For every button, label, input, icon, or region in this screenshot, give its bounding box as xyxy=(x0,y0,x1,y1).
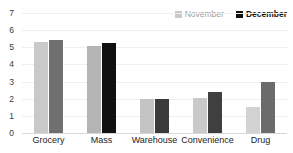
bar-group xyxy=(140,13,169,133)
bar-warehouse-november xyxy=(140,99,154,133)
bar-chart: November December 76543210 GroceryMassWa… xyxy=(0,0,293,153)
x-axis-label-mass: Mass xyxy=(91,135,113,146)
y-axis-tick-label: 2 xyxy=(9,94,14,103)
bar-convenience-november xyxy=(193,98,207,133)
bar-drug-november xyxy=(246,107,260,133)
bar-group xyxy=(34,13,63,133)
y-axis-tick-label: 1 xyxy=(9,111,14,120)
y-axis-tick-label: 4 xyxy=(9,60,14,69)
bar-grocery-november xyxy=(34,42,48,133)
bar-mass-november xyxy=(87,46,101,133)
bar-drug-december xyxy=(261,82,275,133)
bar-group xyxy=(246,13,275,133)
bar-grocery-december xyxy=(49,40,63,133)
y-axis-tick-label: 5 xyxy=(9,43,14,52)
bar-mass-december xyxy=(102,43,116,133)
y-axis: 76543210 xyxy=(0,13,22,133)
bar-series-area xyxy=(22,13,287,133)
bar-group xyxy=(87,13,116,133)
axis-baseline xyxy=(22,133,287,134)
bar-warehouse-december xyxy=(155,99,169,133)
bar-group xyxy=(193,13,222,133)
y-axis-tick-label: 0 xyxy=(9,129,14,138)
x-axis-label-grocery: Grocery xyxy=(32,135,64,146)
bar-convenience-december xyxy=(208,92,222,133)
x-axis-label-warehouse: Warehouse xyxy=(132,135,178,146)
y-axis-tick-label: 7 xyxy=(9,9,14,18)
x-axis-label-drug: Drug xyxy=(251,135,271,146)
y-axis-tick-label: 3 xyxy=(9,77,14,86)
x-axis-label-convenience: Convenience xyxy=(181,135,234,146)
y-axis-tick-label: 6 xyxy=(9,26,14,35)
x-axis: GroceryMassWarehouseConvenienceDrug xyxy=(22,135,287,151)
